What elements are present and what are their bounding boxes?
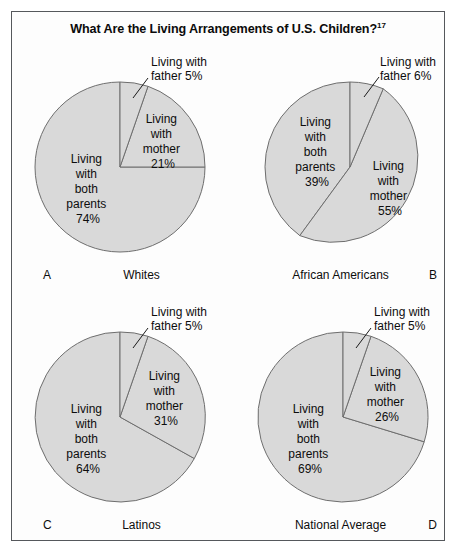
label-mother-a-line3: mother [143,142,180,156]
pie-panel-d: Living with father 5% Living with mother… [240,293,457,538]
label-father-a-line1: Living with [151,55,207,69]
label-both-d-line3: both [297,432,320,446]
label-father-c-line1: Living with [151,305,207,319]
label-both-a-line3: both [75,182,98,196]
label-mother-b-line2: with [377,174,399,188]
label-both-b-line5: 39% [305,175,329,189]
figure-title-footnote-marker: 17 [377,21,386,30]
label-mother-b-line4: 55% [378,204,402,218]
label-mother-d-line2: with [374,380,396,394]
label-both-b-line2: with [304,130,326,144]
label-mother-a-line2: with [150,127,172,141]
label-father-c: Living with father 5% [151,305,210,333]
panel-a-footer: A Whites [23,268,240,286]
pie-chart-d: Living with father 5% Living with mother… [240,293,457,538]
label-both-c-line3: both [75,432,98,446]
label-both-a-line1: Living [71,152,102,166]
pie-chart-b: Living with father 6% Living with both p… [240,43,457,288]
pie-slices-a [35,82,205,252]
label-both-b-line4: parents [295,160,335,174]
panel-caption-a: Whites [33,268,250,282]
label-father-d: Living with father 5% [374,305,433,333]
pie-panel-a: Living with father 5% Living with mother… [23,43,240,288]
label-father-b-line1: Living with [380,55,436,69]
label-both-d-line1: Living [293,402,324,416]
figure-title-text: What Are the Living Arrangements of U.S.… [70,22,377,36]
label-father-a-line2: father 5% [151,69,203,83]
label-both-c-line1: Living [71,402,102,416]
label-father-b: Living with father 6% [380,55,439,83]
label-father-d-line2: father 5% [374,319,426,333]
label-both-a-line4: parents [66,197,106,211]
figure-title: What Are the Living Arrangements of U.S.… [12,21,444,36]
label-mother-d-line1: Living [370,365,401,379]
label-both-c-line4: parents [66,447,106,461]
label-both-b-line3: both [304,145,327,159]
label-father-c-line2: father 5% [151,319,203,333]
label-mother-a-line1: Living [146,112,177,126]
pie-slices-c [35,332,205,502]
label-both-d-line4: parents [288,447,328,461]
label-both-b-line1: Living [300,115,331,129]
panel-d-footer: D National Average [240,518,457,536]
label-both-c-line2: with [75,417,97,431]
label-mother-c-line4: 31% [154,414,178,428]
label-mother-b-line3: mother [370,189,407,203]
pie-chart-a: Living with father 5% Living with mother… [23,43,240,288]
label-mother-a-line4: 21% [151,157,175,171]
label-father-b-line2: father 6% [380,69,432,83]
pie-panel-b: Living with father 6% Living with both p… [240,43,457,288]
panel-caption-d: National Average [232,518,449,532]
panel-b-footer: B African Americans [240,268,457,286]
label-both-d-line2: with [297,417,319,431]
label-father-d-line1: Living with [374,305,430,319]
pie-slices-d [258,332,428,502]
label-both-a-line5: 74% [76,212,100,226]
label-mother-d-line3: mother [367,395,404,409]
label-mother-d-line4: 26% [375,410,399,424]
pie-panel-c: Living with father 5% Living with mother… [23,293,240,538]
label-father-a: Living with father 5% [151,55,210,83]
label-mother-c-line2: with [153,384,175,398]
panel-caption-c: Latinos [33,518,250,532]
label-mother-c-line1: Living [149,369,180,383]
pie-chart-c: Living with father 5% Living with mother… [23,293,240,538]
label-both-a-line2: with [75,167,97,181]
label-both-c-line5: 64% [76,462,100,476]
panel-c-footer: C Latinos [23,518,240,536]
label-mother-c-line3: mother [146,399,183,413]
label-mother-b-line1: Living [373,159,404,173]
label-both-d-line5: 69% [298,462,322,476]
figure-frame: What Are the Living Arrangements of U.S.… [11,11,445,541]
panel-caption-b: African Americans [232,268,449,282]
